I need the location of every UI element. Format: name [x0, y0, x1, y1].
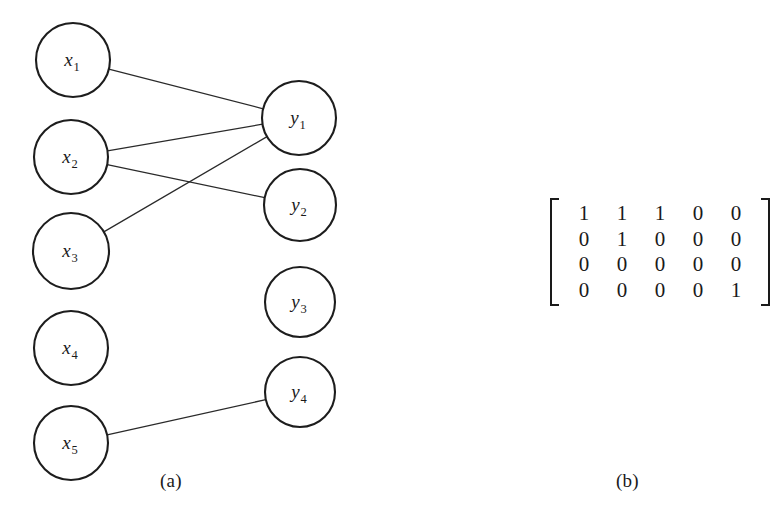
matrix-cell-r2-c2: 1 — [603, 227, 641, 253]
matrix-cell-r4-c4: 0 — [679, 278, 717, 304]
matrix-cell-r4-c3: 0 — [641, 278, 679, 304]
graph-edge-x5-y4 — [107, 400, 266, 435]
matrix-cell-r1-c3: 1 — [641, 201, 679, 227]
bipartite-graph-panel: x1x2x3x4x5y1y2y3y4 (a) — [0, 0, 400, 528]
matrix-cell-r3-c1: 0 — [565, 252, 603, 278]
matrix-cell-r4-c2: 0 — [603, 278, 641, 304]
graph-node-x5[interactable]: x5 — [34, 406, 108, 480]
matrix-cell-r3-c3: 0 — [641, 252, 679, 278]
edges-group — [104, 69, 267, 435]
matrix-cell-r2-c3: 0 — [641, 227, 679, 253]
matrix-cell-r2-c5: 0 — [717, 227, 755, 253]
matrix-cell-r2-c4: 0 — [679, 227, 717, 253]
graph-node-x2[interactable]: x2 — [34, 120, 108, 194]
bipartite-graph-svg: x1x2x3x4x5y1y2y3y4 — [0, 0, 400, 528]
matrix-cell-r1-c1: 1 — [565, 201, 603, 227]
graph-node-y4[interactable]: y4 — [265, 357, 335, 427]
matrix-panel: 11100010000000000001 (b) — [400, 0, 757, 528]
graph-edge-x3-y1 — [104, 137, 267, 232]
graph-edge-x1-y1 — [109, 69, 263, 109]
matrix-container: 11100010000000000001 — [550, 198, 770, 306]
nodes-group: x1x2x3x4x5y1y2y3y4 — [33, 23, 336, 480]
subfigure-caption-b: (b) — [616, 470, 639, 492]
graph-node-y3[interactable]: y3 — [265, 267, 335, 337]
graph-edge-x2-y2 — [107, 165, 265, 198]
graph-node-x4[interactable]: x4 — [34, 311, 108, 385]
matrix-cell-r3-c2: 0 — [603, 252, 641, 278]
matrix-cell-r1-c2: 1 — [603, 201, 641, 227]
graph-node-x1[interactable]: x1 — [36, 23, 110, 97]
graph-edge-x2-y1 — [107, 124, 262, 151]
graph-node-y2[interactable]: y2 — [264, 169, 336, 241]
graph-node-y1[interactable]: y1 — [262, 81, 336, 155]
matrix-cell-r1-c5: 0 — [717, 201, 755, 227]
matrix-cell-r4-c5: 1 — [717, 278, 755, 304]
matrix-cell-r3-c5: 0 — [717, 252, 755, 278]
graph-node-x3[interactable]: x3 — [33, 213, 109, 289]
matrix-left-bracket — [550, 198, 561, 306]
matrix-right-bracket — [759, 198, 770, 306]
matrix-cell-r1-c4: 0 — [679, 201, 717, 227]
matrix-cell-r3-c4: 0 — [679, 252, 717, 278]
matrix-grid: 11100010000000000001 — [561, 198, 759, 306]
matrix-cell-r2-c1: 0 — [565, 227, 603, 253]
matrix-cell-r4-c1: 0 — [565, 278, 603, 304]
subfigure-caption-a: (a) — [160, 470, 182, 492]
